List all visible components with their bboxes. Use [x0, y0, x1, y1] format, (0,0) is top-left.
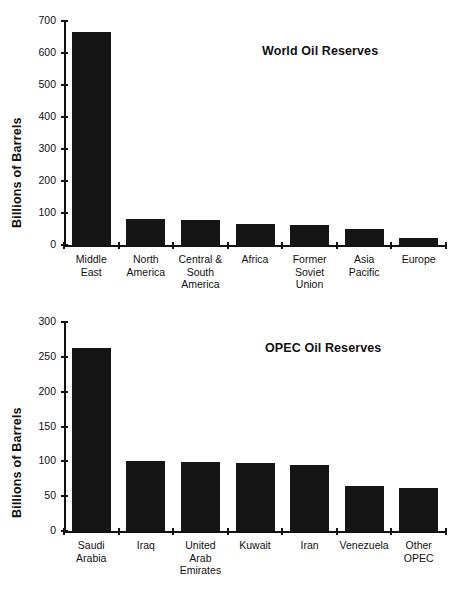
x-axis-tick — [227, 242, 229, 249]
bar — [72, 32, 111, 245]
x-axis-category-label: Asia Pacific — [337, 253, 392, 278]
x-axis-tick — [63, 242, 65, 249]
y-axis-tick — [61, 495, 68, 497]
y-axis-tick-label: 0 — [22, 524, 56, 536]
x-axis-category-label: Venezuela — [337, 539, 392, 552]
x-axis-tick — [227, 528, 229, 535]
y-axis-tick-label: 300 — [22, 315, 56, 327]
y-axis-tick-label: 100 — [22, 454, 56, 466]
bar — [399, 238, 438, 245]
y-axis-tick-label: 400 — [22, 110, 56, 122]
x-axis-tick — [281, 528, 283, 535]
y-axis-tick-label: 500 — [22, 78, 56, 90]
plot-area: 0100200300400500600700Middle EastNorth A… — [0, 0, 466, 300]
y-axis-tick-label: 0 — [22, 238, 56, 250]
x-axis-tick — [172, 242, 174, 249]
x-axis-tick — [390, 528, 392, 535]
y-axis-tick — [61, 116, 68, 118]
bar — [290, 225, 329, 245]
x-axis-line — [64, 245, 446, 247]
y-axis-tick — [61, 84, 68, 86]
y-axis-tick — [61, 426, 68, 428]
y-axis-tick — [61, 180, 68, 182]
y-axis-tick-label: 250 — [22, 350, 56, 362]
x-axis-category-label: Middle East — [64, 253, 119, 278]
y-axis-tick-label: 100 — [22, 206, 56, 218]
y-axis-tick — [61, 321, 68, 323]
x-axis-category-label: Former Soviet Union — [282, 253, 337, 291]
x-axis-category-label: Kuwait — [228, 539, 283, 552]
plot-area: 050100150200250300Saudi ArabiaIraqUnited… — [0, 300, 466, 595]
x-axis-tick — [281, 242, 283, 249]
bar — [236, 463, 275, 531]
y-axis-tick — [61, 391, 68, 393]
x-axis-category-label: Central & South America — [173, 253, 228, 291]
bar — [345, 229, 384, 245]
bar — [345, 486, 384, 531]
bar — [181, 462, 220, 531]
y-axis-tick-label: 150 — [22, 420, 56, 432]
x-axis-tick — [172, 528, 174, 535]
y-axis-tick — [61, 460, 68, 462]
bar — [126, 461, 165, 531]
bar — [181, 220, 220, 245]
y-axis-tick-label: 200 — [22, 174, 56, 186]
x-axis-tick — [445, 242, 447, 249]
x-axis-category-label: Iran — [282, 539, 337, 552]
bar — [290, 465, 329, 531]
y-axis-tick — [61, 356, 68, 358]
x-axis-tick — [118, 528, 120, 535]
x-axis-category-label: Iraq — [119, 539, 174, 552]
x-axis-tick — [63, 528, 65, 535]
bar — [126, 219, 165, 245]
bar — [236, 224, 275, 245]
y-axis-tick — [61, 148, 68, 150]
y-axis-tick — [61, 20, 68, 22]
y-axis-tick — [61, 212, 68, 214]
x-axis-line — [64, 531, 446, 533]
y-axis-tick-label: 600 — [22, 46, 56, 58]
x-axis-tick — [445, 528, 447, 535]
chart-opec-oil-reserves: Billions of Barrels OPEC Oil Reserves 05… — [0, 300, 466, 595]
x-axis-category-label: Saudi Arabia — [64, 539, 119, 564]
x-axis-tick — [118, 242, 120, 249]
x-axis-category-label: Other OPEC — [391, 539, 446, 564]
chart-world-oil-reserves: Billions of Barrels World Oil Reserves 0… — [0, 0, 466, 300]
x-axis-tick — [390, 242, 392, 249]
x-axis-tick — [336, 242, 338, 249]
figure-page: Billions of Barrels World Oil Reserves 0… — [0, 0, 466, 595]
x-axis-category-label: United Arab Emirates — [173, 539, 228, 577]
x-axis-category-label: Europe — [391, 253, 446, 266]
x-axis-category-label: North America — [119, 253, 174, 278]
y-axis-tick-label: 300 — [22, 142, 56, 154]
y-axis-tick — [61, 52, 68, 54]
y-axis-tick-label: 700 — [22, 14, 56, 26]
y-axis-tick-label: 50 — [22, 489, 56, 501]
y-axis-tick-label: 200 — [22, 385, 56, 397]
x-axis-category-label: Africa — [228, 253, 283, 266]
bar — [399, 488, 438, 531]
bar — [72, 348, 111, 531]
x-axis-tick — [336, 528, 338, 535]
